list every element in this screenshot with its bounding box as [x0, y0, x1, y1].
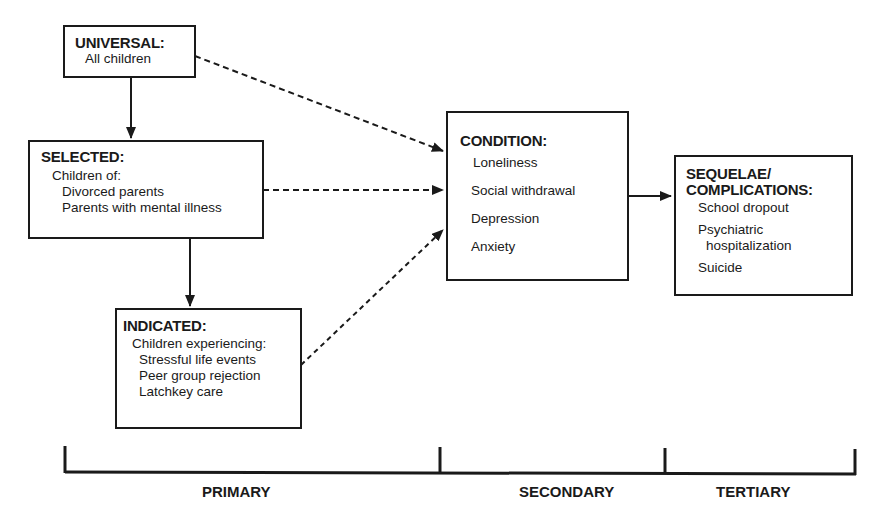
condition-line: Anxiety — [460, 239, 627, 255]
indicated-box: INDICATED: Children experiencing: Stress… — [115, 308, 302, 429]
indicated-line: Children experiencing: — [123, 336, 300, 352]
indicated-title: INDICATED: — [123, 318, 300, 334]
universal-line: All children — [75, 51, 194, 67]
sequelae-line: Psychiatric — [686, 222, 851, 238]
selected-box: SELECTED: Children of: Divorced parents … — [28, 140, 264, 239]
universal-box: UNIVERSAL: All children — [63, 25, 196, 78]
selected-line: Parents with mental illness — [41, 200, 262, 216]
indicated-line: Latchkey care — [123, 384, 300, 400]
sequelae-title-line2: COMPLICATIONS: — [686, 182, 851, 198]
selected-line: Divorced parents — [41, 184, 262, 200]
sequelae-line: Suicide — [686, 260, 851, 276]
condition-line: Depression — [460, 211, 627, 227]
condition-box: CONDITION: Loneliness Social withdrawal … — [446, 111, 629, 281]
universal-title: UNIVERSAL: — [75, 35, 194, 51]
sequelae-box: SEQUELAE/ COMPLICATIONS: School dropout … — [674, 155, 853, 296]
dashed-arrow-universal-to-condition — [195, 56, 443, 151]
timeline-label-primary: PRIMARY — [202, 483, 271, 500]
timeline-label-tertiary: TERTIARY — [716, 483, 790, 500]
selected-title: SELECTED: — [41, 149, 262, 165]
timeline-label-secondary: SECONDARY — [519, 483, 614, 500]
condition-line: Social withdrawal — [460, 183, 627, 199]
sequelae-line: School dropout — [686, 200, 851, 216]
sequelae-title-line1: SEQUELAE/ — [686, 166, 851, 182]
prevention-timeline — [65, 446, 856, 475]
indicated-line: Peer group rejection — [123, 368, 300, 384]
indicated-line: Stressful life events — [123, 352, 300, 368]
condition-line: Loneliness — [460, 155, 627, 171]
selected-line: Children of: — [41, 168, 262, 184]
dashed-arrow-indicated-to-condition — [301, 230, 443, 365]
condition-title: CONDITION: — [460, 133, 627, 149]
sequelae-line: hospitalization — [686, 238, 851, 254]
